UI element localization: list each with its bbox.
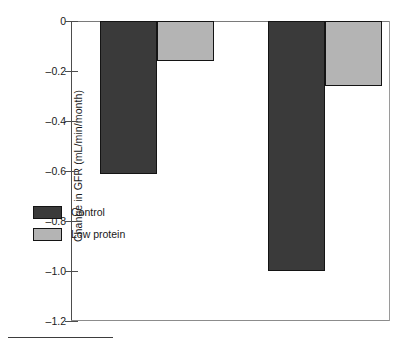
legend-label: Control [71,206,105,218]
y-tick-mark [65,321,78,322]
plot-right-edge [389,21,390,321]
y-tick-mark [65,71,78,72]
legend-item: Low protein [33,224,125,244]
bar-control-group-1 [100,21,157,174]
bar-low-protein-group-2 [325,21,382,86]
y-axis-tick-labels: 0–0.2–0.4–0.6–0.8–1.0–1.2 [26,0,66,347]
chart-legend: ControlLow protein [33,202,125,246]
legend-label: Low protein [71,228,125,240]
legend-item: Control [33,202,125,222]
footer-rule [8,337,113,338]
y-tick-mark [65,121,78,122]
y-tick-label: –1.2 [26,315,66,327]
y-tick-mark [65,271,78,272]
bar-control-group-2 [268,21,325,271]
legend-swatch-icon [33,206,62,219]
y-tick-mark [65,21,78,22]
y-tick-label: –0.2 [26,65,66,77]
bar-chart-figure: Change in GFR (mL/min/month) 0–0.2–0.4–0… [0,0,417,347]
y-tick-label: –0.6 [26,165,66,177]
legend-swatch-icon [33,228,62,241]
y-tick-label: –1.0 [26,265,66,277]
plot-area [71,21,390,321]
y-tick-mark [65,171,78,172]
y-tick-label: –0.4 [26,115,66,127]
plot-bottom-edge [71,320,390,321]
y-tick-label: 0 [26,15,66,27]
bar-low-protein-group-1 [157,21,214,61]
